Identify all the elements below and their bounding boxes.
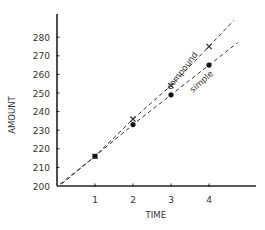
chart-container: 2002102202302402502602702801234TIMEAMOUN… (0, 0, 265, 230)
y-axis-title: AMOUNT (7, 95, 17, 133)
axes (56, 14, 256, 187)
compound-point-x-marker (206, 44, 211, 49)
simple-label: simple (188, 68, 216, 94)
y-tick-label: 230 (33, 126, 50, 136)
y-tick-label: 270 (33, 51, 50, 61)
simple-point-circle-marker (206, 63, 211, 68)
x-tick-label: 1 (92, 195, 98, 205)
y-tick-label: 220 (33, 144, 50, 154)
y-tick-label: 200 (33, 182, 50, 192)
simple-point-circle-marker (130, 122, 135, 127)
y-tick-label: 210 (33, 163, 50, 173)
x-tick-label: 3 (168, 195, 174, 205)
compound-point-x-marker (130, 116, 135, 121)
x-axis-title: TIME (145, 210, 166, 220)
y-tick-label: 240 (33, 107, 50, 117)
chart-svg: 2002102202302402502602702801234TIMEAMOUN… (0, 0, 265, 230)
simple-point-circle-marker (168, 92, 173, 97)
x-tick-label: 4 (206, 195, 212, 205)
y-tick-label: 280 (33, 33, 50, 43)
simple-point-circle-marker (92, 154, 97, 159)
y-tick-label: 250 (33, 89, 50, 99)
axis-labels: 2002102202302402502602702801234TIMEAMOUN… (7, 33, 215, 220)
x-tick-label: 2 (130, 195, 136, 205)
y-tick-label: 260 (33, 70, 50, 80)
